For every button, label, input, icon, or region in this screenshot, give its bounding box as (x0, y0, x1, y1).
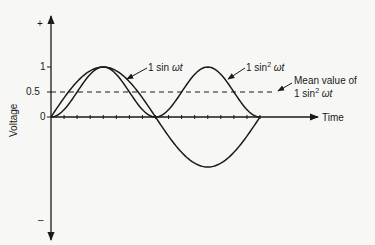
chart-canvas: + – 1 0.5 0 Voltage Time 1 sin ωt 1 sin2… (0, 0, 375, 245)
sin-annotation-label: 1 sin ωt (148, 62, 184, 73)
y-axis-plus-label: + (37, 18, 43, 29)
y-axis-title: Voltage (8, 103, 19, 137)
sin2-annotation-label: 1 sin2 ωt (246, 61, 286, 73)
y-tick-label-0: 0 (40, 111, 46, 122)
mean-annotation-line1: Mean value of (294, 75, 357, 86)
y-tick-label-05: 0.5 (26, 86, 40, 97)
mean-annotation-arrow (278, 83, 292, 91)
y-tick-label-1: 1 (40, 61, 46, 72)
sin2-annotation-arrow (228, 68, 245, 79)
x-axis-title: Time (322, 112, 344, 123)
y-axis-minus-label: – (38, 214, 44, 225)
mean-annotation-line2: 1 sin2 ωt (294, 87, 334, 99)
sin-annotation-arrow (127, 68, 147, 79)
